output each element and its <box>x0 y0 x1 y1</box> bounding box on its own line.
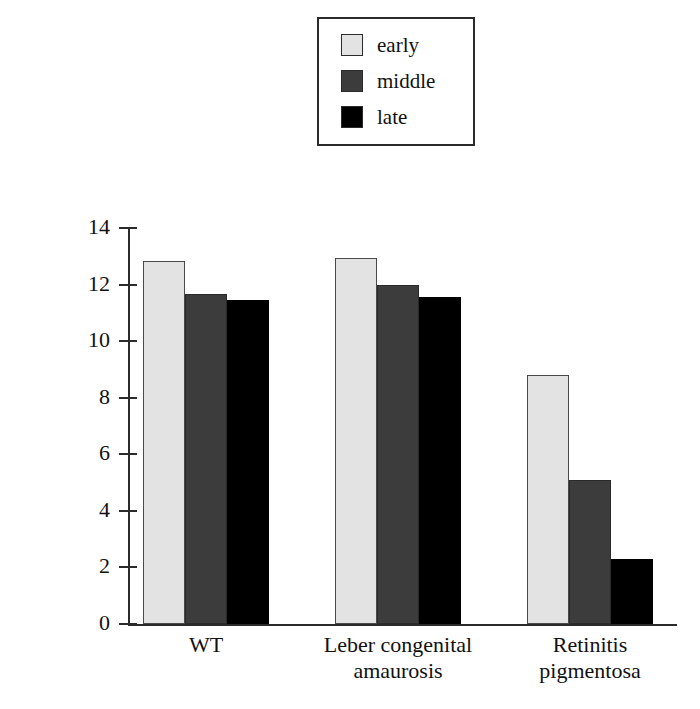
y-tick-4: 4 <box>119 510 137 512</box>
legend-item-late: late <box>341 105 407 129</box>
y-axis-line <box>128 228 130 624</box>
legend-label-middle: middle <box>377 71 435 92</box>
chart-figure: early middle late Number of photorecepto… <box>0 0 700 709</box>
legend-swatch-middle <box>341 70 363 92</box>
chart-legend: early middle late <box>317 17 475 146</box>
y-tick-label-8: 8 <box>99 386 110 408</box>
legend-label-early: early <box>377 35 419 56</box>
y-tick-label-2: 2 <box>99 555 110 577</box>
bar-late-group-3 <box>611 559 653 624</box>
y-tick-8: 8 <box>119 397 137 399</box>
x-category-label-1: WT <box>189 632 223 658</box>
bar-middle-group-1 <box>185 294 227 624</box>
bar-early-group-3 <box>527 375 569 624</box>
y-tick-label-14: 14 <box>88 216 110 238</box>
bar-early-group-2 <box>335 258 377 624</box>
x-category-label-2: Leber congenital amaurosis <box>324 632 472 684</box>
legend-swatch-early <box>341 34 363 56</box>
y-tick-label-6: 6 <box>99 442 110 464</box>
legend-item-early: early <box>341 33 419 57</box>
y-tick-label-12: 12 <box>88 273 110 295</box>
bar-late-group-2 <box>419 297 461 624</box>
y-tick-2: 2 <box>119 566 137 568</box>
x-axis-line <box>128 624 677 626</box>
y-tick-0: 0 <box>119 623 137 625</box>
legend-swatch-late <box>341 106 363 128</box>
y-tick-6: 6 <box>119 453 137 455</box>
bar-middle-group-2 <box>377 285 419 624</box>
bar-middle-group-3 <box>569 480 611 624</box>
y-tick-14: 14 <box>119 227 137 229</box>
plot-area: 02468101214 WTLeber congenital amaurosis… <box>128 228 677 624</box>
y-tick-10: 10 <box>119 340 137 342</box>
legend-label-late: late <box>377 107 407 128</box>
y-tick-label-10: 10 <box>88 329 110 351</box>
x-category-label-3: Retinitis pigmentosa <box>539 632 640 684</box>
bar-early-group-1 <box>143 261 185 624</box>
y-tick-label-4: 4 <box>99 499 110 521</box>
y-tick-label-0: 0 <box>99 612 110 634</box>
legend-item-middle: middle <box>341 69 435 93</box>
bar-late-group-1 <box>227 300 269 624</box>
y-tick-12: 12 <box>119 284 137 286</box>
